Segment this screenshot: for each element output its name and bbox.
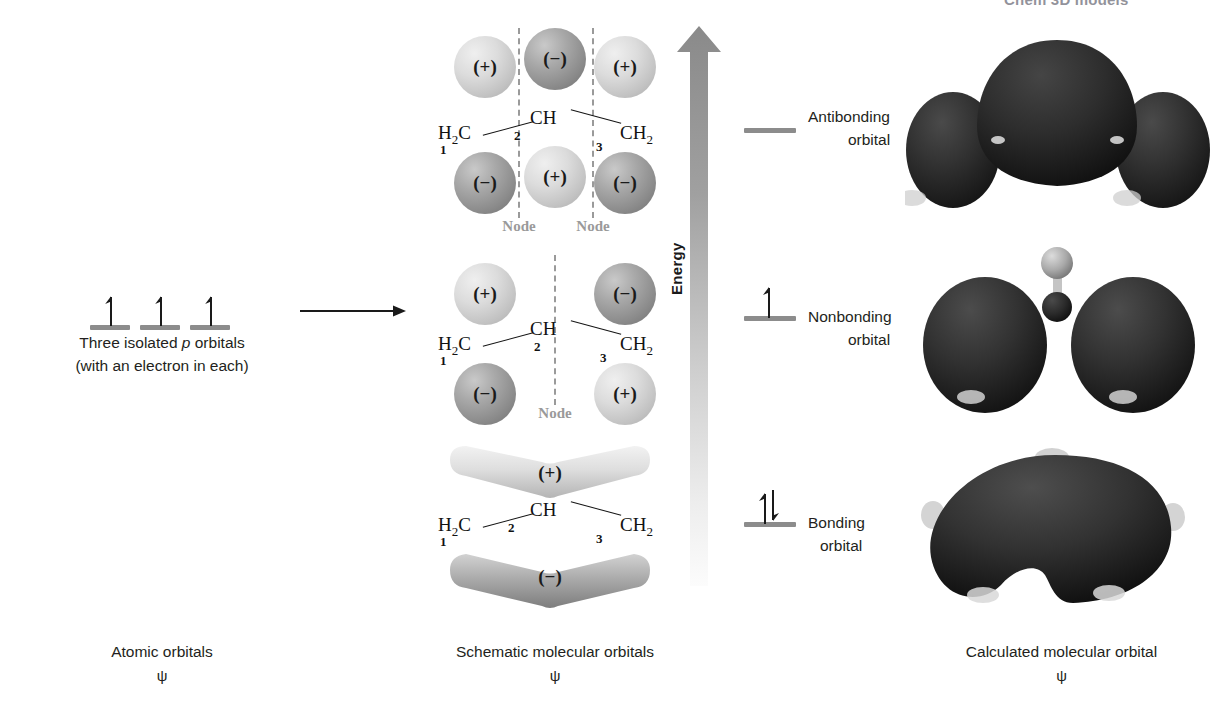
node-label: Node [489, 218, 549, 235]
column-caption-atomic: Atomic orbitals ψ [12, 640, 312, 687]
calculated-orbitals-column [905, 0, 1218, 640]
orbital-surface-2lobe [905, 245, 1218, 420]
lobe-sign: (+) [594, 36, 656, 98]
lobe-sign: (+) [454, 263, 516, 325]
skeleton-right-group: CH2 [620, 514, 653, 540]
skeleton-bond [571, 109, 621, 123]
column-caption-calculated: Calculated molecular orbital ψ [905, 640, 1218, 687]
orbital-surface-3lobe [905, 22, 1218, 217]
carbon-atom [1042, 292, 1072, 322]
skeleton-center-group: CH [530, 318, 556, 340]
caption-line2: (with an electron in each) [12, 354, 312, 377]
electron-up-arrow-icon [104, 294, 118, 326]
skeleton-bond [483, 332, 533, 346]
carbon-number: 2 [514, 128, 521, 144]
skeleton-bond [571, 501, 621, 515]
electron-up-arrow-icon [204, 294, 218, 326]
lobe-sign: (−) [594, 152, 656, 214]
schematic-nonbonding-orbital: (+) (−) H2C 1 CH 2 CH2 3 (−) (+) Node [430, 255, 680, 425]
lobe-sign: (+) [454, 36, 516, 98]
orbital-surface-1lobe [905, 435, 1218, 620]
energy-level-antibonding [744, 128, 796, 133]
lobe-sign: (+) [524, 146, 586, 208]
lobe-sign: (−) [454, 152, 516, 214]
lobe-sign: (−) [524, 28, 586, 90]
psi-symbol: ψ [430, 664, 680, 687]
carbon-skeleton: H2C 1 CH 2 CH2 3 [430, 317, 680, 363]
skeleton-right-group: CH2 [620, 333, 653, 359]
skeleton-center-group: CH [530, 107, 556, 129]
psi-symbol: ψ [905, 664, 1218, 687]
calculated-antibonding-orbital [905, 22, 1218, 217]
carbon-number: 3 [600, 350, 607, 366]
carbon-skeleton: H2C 1 CH 2 CH2 3 [430, 498, 680, 544]
transformation-arrow-icon [298, 300, 408, 322]
carbon-number: 2 [508, 520, 515, 536]
node-label: Node [563, 218, 623, 235]
bonding-lower-lobe: (−) [446, 544, 654, 610]
atomic-orbitals-group: Three isolated p orbitals (with an elect… [12, 285, 312, 330]
electron-down-arrow-icon [765, 490, 781, 524]
psi-symbol: ψ [12, 664, 312, 687]
lobe-sign: (+) [538, 462, 561, 484]
lobe-sign: (−) [454, 363, 516, 425]
atomic-orbital-levels [90, 285, 240, 330]
column-caption-schematic: Schematic molecular orbitals ψ [430, 640, 680, 687]
lobe-sign: (−) [538, 566, 561, 588]
caption-post: orbitals [190, 334, 244, 351]
caption-pre: Three isolated [79, 334, 182, 351]
carbon-number: 1 [440, 353, 447, 369]
carbon-number: 3 [596, 139, 603, 155]
energy-axis-arrow-icon [676, 26, 722, 586]
orbital-energy-diagram: Chem 3D models Three isolated p orbitals… [0, 0, 1218, 712]
electron-up-arrow-icon [761, 284, 777, 318]
carbon-number: 2 [534, 339, 541, 355]
energy-axis-label: Energy [668, 242, 685, 295]
hydrogen-atom [1041, 247, 1073, 279]
electron-up-arrow-icon [154, 294, 168, 326]
skeleton-bond [571, 320, 621, 334]
bonding-upper-lobe: (+) [446, 440, 654, 506]
calculated-nonbonding-orbital [905, 245, 1218, 420]
carbon-number: 1 [440, 142, 447, 158]
schematic-bonding-orbital: (+) H2C 1 CH 2 CH2 3 [430, 440, 680, 620]
skeleton-bond [483, 121, 533, 135]
skeleton-right-group: CH2 [620, 122, 653, 148]
atomic-orbitals-caption: Three isolated p orbitals (with an elect… [12, 331, 312, 378]
schematic-mo-column: (+) (−) (+) H2C 1 CH 2 CH2 3 (−) (+) (−)… [430, 0, 680, 640]
lobe-sign: (+) [594, 363, 656, 425]
schematic-antibonding-orbital: (+) (−) (+) H2C 1 CH 2 CH2 3 (−) (+) (−)… [430, 28, 680, 243]
node-label: Node [525, 405, 585, 422]
lobe-sign: (−) [594, 263, 656, 325]
skeleton-center-group: CH [530, 499, 556, 521]
calculated-bonding-orbital [905, 435, 1218, 620]
